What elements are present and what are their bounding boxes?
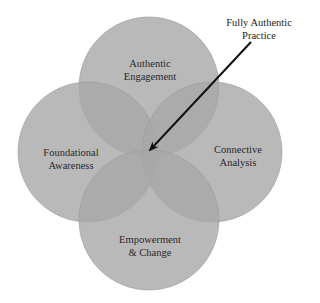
label-line: Authentic bbox=[124, 57, 176, 70]
callout-line: Practice bbox=[226, 29, 292, 42]
label-line: Connective bbox=[214, 143, 262, 156]
callout-line: Fully Authentic bbox=[226, 16, 292, 29]
label-line: & Change bbox=[119, 246, 181, 259]
label-foundational-awareness: Foundational Awareness bbox=[43, 146, 98, 172]
label-empowerment-change: Empowerment & Change bbox=[119, 233, 181, 259]
circle-empowerment-change bbox=[79, 150, 219, 290]
label-line: Awareness bbox=[43, 159, 98, 172]
callout-fully-authentic-practice: Fully Authentic Practice bbox=[226, 16, 292, 42]
label-line: Empowerment bbox=[119, 233, 181, 246]
label-line: Engagement bbox=[124, 70, 176, 83]
label-line: Foundational bbox=[43, 146, 98, 159]
label-connective-analysis: Connective Analysis bbox=[214, 143, 262, 169]
label-line: Analysis bbox=[214, 156, 262, 169]
label-authentic-engagement: Authentic Engagement bbox=[124, 57, 176, 83]
